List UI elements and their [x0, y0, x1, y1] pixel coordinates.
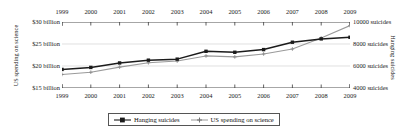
spurious-correlation-chart: US spending on science Hanging suicides … [0, 0, 407, 133]
right-tick-6000: 6000 suicides [353, 62, 388, 69]
left-tick-25: $25 billion [32, 40, 60, 47]
left-axis-tick-labels: $30 billion $25 billion $20 billion $15 … [0, 0, 60, 133]
top-xtick-2002: 2002 [136, 8, 160, 15]
bottom-xtick-2006: 2006 [252, 92, 276, 99]
right-tick-8000: 8000 suicides [353, 40, 388, 47]
top-xtick-2004: 2004 [194, 8, 218, 15]
top-xtick-2007: 2007 [280, 8, 304, 15]
top-xtick-2006: 2006 [252, 8, 276, 15]
bottom-xtick-2001: 2001 [108, 92, 132, 99]
top-xtick-2000: 2000 [79, 8, 103, 15]
plot-area [62, 22, 350, 88]
top-xtick-2005: 2005 [223, 8, 247, 15]
bottom-xtick-2008: 2008 [309, 92, 333, 99]
bottom-xtick-2009: 2009 [338, 92, 362, 99]
right-tick-4000: 4000 suicides [353, 84, 388, 91]
bottom-xtick-2004: 2004 [194, 92, 218, 99]
top-xtick-1999: 1999 [50, 8, 74, 15]
legend-item-hanging-suicides[interactable]: Hanging suicides [114, 116, 180, 124]
left-tick-20: $20 billion [32, 62, 60, 69]
right-tick-10000: 10000 suicides [353, 18, 391, 25]
left-tick-30: $30 billion [32, 18, 60, 25]
bottom-xtick-2005: 2005 [223, 92, 247, 99]
top-xtick-2003: 2003 [165, 8, 189, 15]
right-axis-tick-labels: 10000 suicides 8000 suicides 6000 suicid… [353, 0, 407, 133]
legend-marker-cross-icon [191, 116, 208, 124]
legend-label-hanging-suicides: Hanging suicides [134, 116, 180, 123]
legend-label-us-spending: US spending on science [211, 116, 274, 123]
top-xtick-2009: 2009 [338, 8, 362, 15]
left-tick-15: $15 billion [32, 84, 60, 91]
top-xtick-2001: 2001 [108, 8, 132, 15]
legend-item-us-spending[interactable]: US spending on science [191, 116, 274, 124]
chart-legend: Hanging suicides US spending on science [108, 113, 280, 126]
bottom-xtick-2007: 2007 [280, 92, 304, 99]
bottom-xtick-2000: 2000 [79, 92, 103, 99]
top-xtick-2008: 2008 [309, 8, 333, 15]
bottom-xtick-2003: 2003 [165, 92, 189, 99]
legend-marker-filled-square-icon [114, 116, 131, 124]
bottom-xtick-2002: 2002 [136, 92, 160, 99]
bottom-xtick-1999: 1999 [50, 92, 74, 99]
